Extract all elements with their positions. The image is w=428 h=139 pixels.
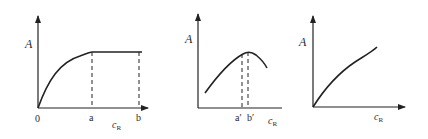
origin-label: 0: [35, 113, 40, 124]
tick-b-prime: b′: [247, 112, 254, 123]
panel-2-peak: A a′ b′ cR: [184, 14, 282, 128]
curve: [38, 52, 142, 108]
tick-a-prime: a′: [235, 112, 242, 123]
tick-a: a: [89, 112, 94, 123]
tick-b: b: [136, 112, 141, 123]
x-axis-label: cR: [268, 115, 277, 128]
x-axis-label: cR: [112, 119, 121, 132]
curve: [313, 47, 377, 107]
chart-figure: A 0 a b cR A a′ b′ cR A cR: [0, 0, 428, 139]
y-axis-label: A: [184, 32, 193, 46]
curve: [205, 52, 267, 93]
panel-3-increasing: A cR: [298, 16, 405, 124]
y-axis-label: A: [298, 35, 307, 49]
panel-1-saturation: A 0 a b cR: [24, 16, 148, 132]
y-axis-label: A: [24, 37, 33, 51]
x-axis-label: cR: [374, 111, 383, 124]
